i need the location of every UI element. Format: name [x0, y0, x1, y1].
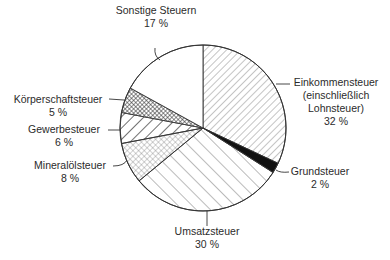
label-grund: Grundsteuer 2 % [285, 165, 355, 191]
label-mineral-name: Mineralölsteuer [28, 159, 112, 172]
label-koerper-name: Körperschaftsteuer [8, 93, 108, 106]
leader-mineral [113, 160, 127, 166]
label-einkommen-sub2: Lohnsteuer) [286, 102, 386, 115]
label-umsatz-pct: 30 % [167, 238, 247, 251]
label-umsatz-name: Umsatzsteuer [167, 225, 247, 238]
label-einkommen-name: Einkommensteuer [286, 76, 386, 89]
label-mineral-pct: 8 % [28, 172, 112, 185]
label-koerper: Körperschaftsteuer 5 % [8, 93, 108, 119]
label-sonstige-name: Sonstige Steuern [106, 4, 206, 17]
pie-slices [120, 45, 286, 211]
label-grund-name: Grundsteuer [285, 165, 355, 178]
label-gewerbe-pct: 6 % [22, 136, 106, 149]
label-sonstige-pct: 17 % [106, 17, 206, 30]
label-einkommen-sub1: (einschließlich [286, 89, 386, 102]
label-gewerbe-name: Gewerbesteuer [22, 123, 106, 136]
leader-koerper [109, 99, 124, 100]
label-mineral: Mineralölsteuer 8 % [28, 159, 112, 185]
label-sonstige: Sonstige Steuern 17 % [106, 4, 206, 30]
label-umsatz: Umsatzsteuer 30 % [167, 225, 247, 251]
label-grund-pct: 2 % [285, 178, 355, 191]
label-koerper-pct: 5 % [8, 106, 108, 119]
label-einkommen-pct: 32 % [286, 115, 386, 128]
label-einkommen: Einkommensteuer (einschließlich Lohnsteu… [286, 76, 386, 128]
label-gewerbe: Gewerbesteuer 6 % [22, 123, 106, 149]
